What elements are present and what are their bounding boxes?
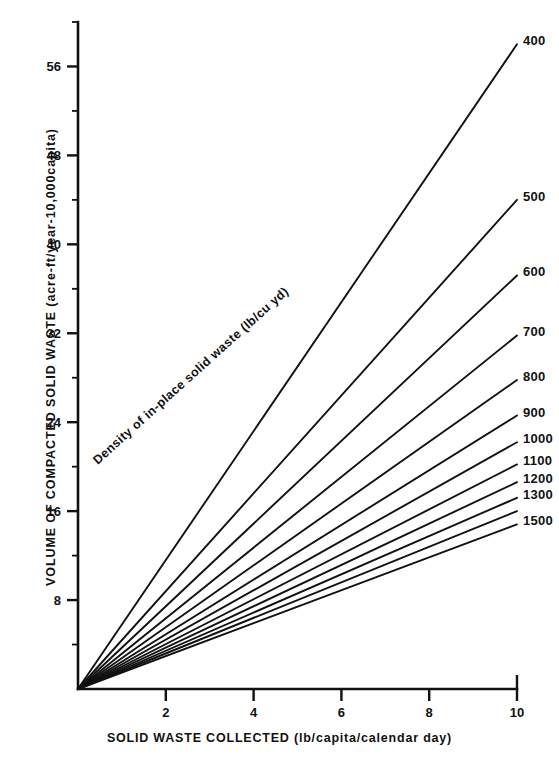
series-label-1500: 1500 xyxy=(523,513,553,528)
series-label-800: 800 xyxy=(523,368,546,383)
series-line-600 xyxy=(78,275,517,689)
x-tick-label: 10 xyxy=(497,705,537,720)
y-ticks-group xyxy=(67,22,78,645)
series-line-400 xyxy=(78,44,517,689)
y-tick-label: 24 xyxy=(21,415,61,430)
y-tick-label: 48 xyxy=(21,148,61,163)
x-tick-label: 4 xyxy=(234,705,274,720)
series-label-1300: 1300 xyxy=(523,486,553,501)
series-label-1200: 1200 xyxy=(523,471,553,486)
axes-group xyxy=(78,22,517,689)
series-label-1100: 1100 xyxy=(523,453,552,468)
series-lines-group xyxy=(78,44,517,689)
series-label-600: 600 xyxy=(523,264,546,279)
series-line-500 xyxy=(78,200,517,689)
x-axis-title: SOLID WASTE COLLECTED (lb/capita/calenda… xyxy=(0,731,559,745)
y-tick-label: 56 xyxy=(21,59,61,74)
x-tick-label: 8 xyxy=(409,705,449,720)
plot-area xyxy=(0,0,559,763)
chart-figure: VOLUME OF COMPACTED SOLID WASTE (acre-ft… xyxy=(0,0,559,763)
series-label-400: 400 xyxy=(523,33,546,48)
series-line-1400 xyxy=(78,511,517,689)
series-label-500: 500 xyxy=(523,188,546,203)
y-tick-label: 16 xyxy=(21,504,61,519)
series-line-1000 xyxy=(78,442,517,689)
series-line-1100 xyxy=(78,464,517,689)
x-tick-label: 6 xyxy=(321,705,361,720)
x-tick-label: 2 xyxy=(146,705,186,720)
x-ticks-group xyxy=(166,689,517,701)
series-line-900 xyxy=(78,416,517,689)
y-tick-label: 40 xyxy=(21,237,61,252)
series-label-900: 900 xyxy=(523,404,546,419)
series-line-1500 xyxy=(78,524,517,689)
series-label-1000: 1000 xyxy=(523,431,553,446)
y-tick-label: 8 xyxy=(21,593,61,608)
series-label-700: 700 xyxy=(523,324,546,339)
y-tick-label: 32 xyxy=(21,326,61,341)
